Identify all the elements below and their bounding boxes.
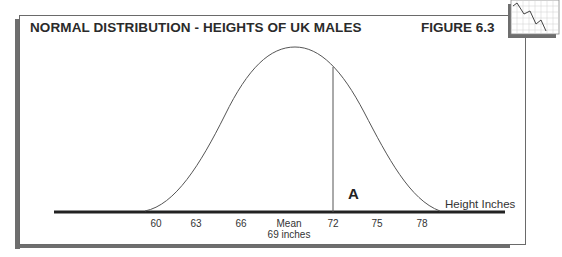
x-tick-72: 72	[327, 218, 338, 229]
x-tick-63: 63	[190, 218, 201, 229]
mean-label: Mean	[268, 218, 311, 229]
x-tick-75: 75	[371, 218, 382, 229]
area-a-label: A	[348, 185, 359, 202]
normal-curve	[145, 47, 440, 211]
x-tick-66: 66	[235, 218, 246, 229]
x-tick-mean: Mean 69 inches	[268, 218, 311, 240]
x-axis-label: Height Inches	[445, 198, 515, 210]
x-tick-78: 78	[416, 218, 427, 229]
x-tick-60: 60	[150, 218, 161, 229]
mean-sublabel: 69 inches	[268, 229, 311, 240]
